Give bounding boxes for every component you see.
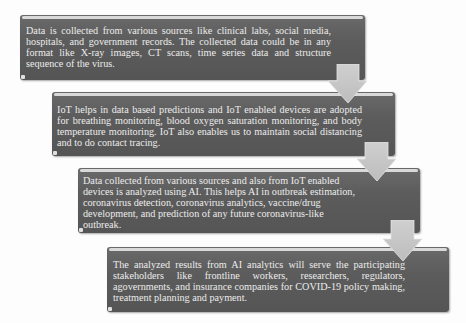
step-text: IoT helps in data based predictions and … — [57, 104, 362, 148]
step-box-data-collection: Data is collected from various sources l… — [20, 15, 365, 80]
down-arrow-icon — [327, 64, 367, 104]
step-text: Data collected from various sources and … — [83, 175, 363, 230]
down-arrow-icon — [357, 142, 397, 182]
step-text: The analyzed results from AI analytics w… — [113, 259, 405, 303]
process-flow-diagram: Data is collected from various sources l… — [0, 0, 466, 323]
step-text: Data is collected from various sources l… — [26, 25, 331, 69]
down-arrow-icon — [383, 220, 423, 260]
